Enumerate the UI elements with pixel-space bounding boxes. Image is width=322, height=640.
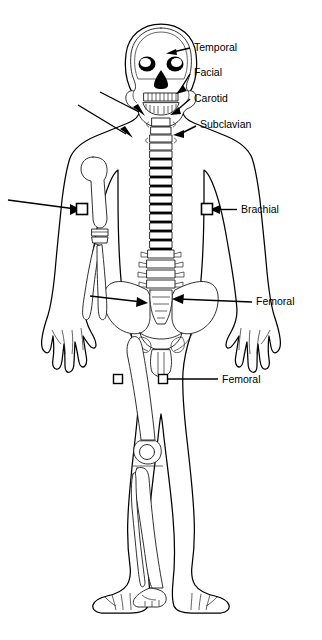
body-figure-svg: Temporal Facial Carotid Subclavian Brach… <box>0 0 322 640</box>
label-subclavian: Subclavian <box>200 118 252 130</box>
marker-brachial-left[interactable] <box>77 204 88 215</box>
label-brachial: Brachial <box>241 203 279 215</box>
thoracic-spine <box>150 151 172 250</box>
label-femoral-thigh: Femoral <box>222 373 261 385</box>
label-carotid: Carotid <box>194 92 228 104</box>
anatomy-diagram: Temporal Facial Carotid Subclavian Brach… <box>0 0 322 640</box>
label-femoral-groin: Femoral <box>256 295 295 307</box>
marker-femoral-right-thigh[interactable] <box>159 375 168 384</box>
marker-brachial-right[interactable] <box>202 204 213 215</box>
marker-femoral-left-thigh[interactable] <box>114 375 123 384</box>
label-facial: Facial <box>194 66 222 78</box>
label-temporal: Temporal <box>194 41 237 53</box>
